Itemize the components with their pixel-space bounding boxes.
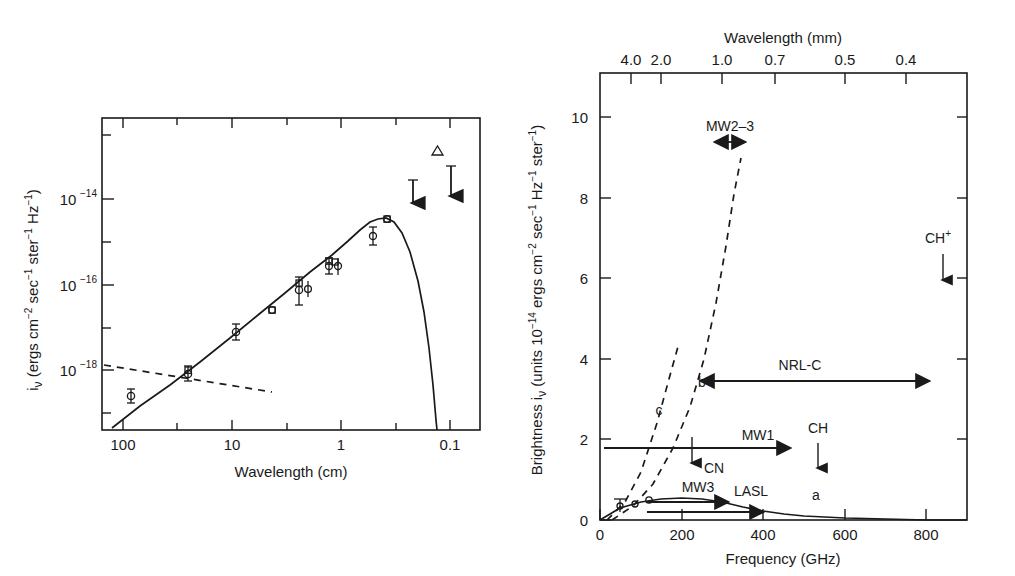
left-xtick-label-1: 10 bbox=[224, 436, 241, 453]
svg-text:Brightness iν (units 10−14 erg: Brightness iν (units 10−14 ergs cm−2 sec… bbox=[527, 125, 549, 475]
annotation-mw2-3: MW2–3 bbox=[706, 118, 754, 142]
left-data-point bbox=[332, 258, 342, 275]
ryt-tail: ) bbox=[528, 125, 545, 130]
right-bottom-tick-label-0: 0 bbox=[596, 526, 604, 543]
right-top-tick-label-1: 2.0 bbox=[651, 51, 672, 68]
right-curve-b-label: b bbox=[698, 374, 706, 390]
annotation-lasl-label: LASL bbox=[734, 483, 768, 499]
right-top-tick-label-2: 1.0 bbox=[712, 51, 733, 68]
left-data-points bbox=[127, 216, 390, 403]
annotation-ch-plus: CH+ bbox=[925, 228, 951, 280]
right-bottom-tick-label-3: 600 bbox=[832, 526, 857, 543]
right-curve-c bbox=[607, 343, 679, 520]
left-blackbody-curve bbox=[112, 218, 437, 430]
left-bottom-ticks bbox=[123, 420, 450, 430]
left-data-point bbox=[127, 389, 135, 403]
annotation-ch-label: CH bbox=[808, 420, 828, 436]
svg-text:iν (ergs cm−2 sec−1 ster−1 Hz−: iν (ergs cm−2 sec−1 ster−1 Hz−1) bbox=[23, 189, 45, 391]
right-top-tick-label-3: 0.7 bbox=[765, 51, 786, 68]
lyt-m2: ster bbox=[24, 239, 41, 268]
right-top-ticks bbox=[631, 73, 906, 84]
right-top-axis-title: Wavelength (mm) bbox=[724, 29, 842, 46]
right-bottom-tick-label-1: 200 bbox=[669, 526, 694, 543]
right-top-tick-label-4: 0.5 bbox=[835, 51, 856, 68]
left-ytick-exp-1: −16 bbox=[80, 274, 97, 285]
left-data-point bbox=[305, 281, 312, 297]
right-ytick-label-3: 6 bbox=[580, 270, 588, 287]
left-xtick-label-3: 0.1 bbox=[440, 436, 461, 453]
right-ytick-label-4: 8 bbox=[580, 190, 588, 207]
left-plot-svg: 100 10 1 0.1 10 −14 10 −16 10 −18 Wavele… bbox=[0, 0, 500, 500]
right-plot-panel: Wavelength (mm) 4.0 2.0 1.0 0.7 0.5 0.4 bbox=[470, 0, 1015, 576]
left-xtick-label-0: 100 bbox=[110, 436, 135, 453]
left-plot-frame bbox=[102, 118, 480, 430]
annotation-cn: CN bbox=[692, 437, 724, 476]
svg-text:10: 10 bbox=[60, 191, 77, 208]
svg-text:CH+: CH+ bbox=[925, 228, 951, 246]
left-open-triangle-point bbox=[432, 146, 443, 155]
ryt-m1: sec bbox=[528, 215, 545, 243]
svg-text:10: 10 bbox=[60, 362, 77, 379]
left-upper-limit-arrow bbox=[408, 180, 418, 203]
right-bottom-axis-title: Frequency (GHz) bbox=[725, 550, 840, 567]
lyt-e3: −1 bbox=[23, 228, 34, 240]
left-ytick-label-1: 10 −16 bbox=[60, 274, 98, 294]
right-ytick-label-5: 10 bbox=[571, 109, 588, 126]
ryt-m0: ergs cm bbox=[528, 255, 545, 313]
left-ytick-exp-0: −14 bbox=[80, 188, 97, 199]
right-curve-c-label: c bbox=[656, 402, 663, 418]
right-ytick-label-0: 0 bbox=[580, 512, 588, 529]
left-plot-panel: 100 10 1 0.1 10 −14 10 −16 10 −18 Wavele… bbox=[0, 0, 500, 500]
figure-page: 100 10 1 0.1 10 −14 10 −16 10 −18 Wavele… bbox=[0, 0, 1015, 576]
left-ytick-label-0: 10 −14 bbox=[60, 188, 98, 208]
annotation-mw1: MW1 bbox=[604, 427, 787, 448]
left-upper-limit-arrow bbox=[446, 166, 456, 196]
right-ytick-label-2: 4 bbox=[580, 351, 588, 368]
left-y-ticks bbox=[102, 135, 114, 413]
annotation-ch-plus-label: CH bbox=[925, 230, 945, 246]
lyt-e2: −1 bbox=[23, 268, 34, 280]
left-upper-limit-arrows bbox=[408, 166, 456, 203]
ryt-m3: ster bbox=[528, 141, 545, 170]
ryt-e3: −1 bbox=[527, 170, 538, 182]
ryt-m2: Hz bbox=[528, 182, 545, 205]
left-y-axis-title: iν (ergs cm−2 sec−1 ster−1 Hz−1) bbox=[23, 189, 45, 391]
lyt-tail: ) bbox=[24, 189, 41, 194]
left-data-point bbox=[295, 277, 303, 305]
ryt-units: (units 10 bbox=[528, 329, 545, 391]
right-bottom-tick-label-4: 800 bbox=[913, 526, 938, 543]
annotation-mw2-3-label: MW2–3 bbox=[706, 118, 754, 134]
left-data-point bbox=[269, 307, 276, 314]
ryt-lead: Brightness i bbox=[528, 397, 545, 475]
right-top-tick-label-0: 4.0 bbox=[621, 51, 642, 68]
left-ytick-label-2: 10 −18 bbox=[60, 359, 98, 379]
left-data-point bbox=[232, 324, 240, 340]
right-plot-svg: Wavelength (mm) 4.0 2.0 1.0 0.7 0.5 0.4 bbox=[470, 0, 1015, 576]
lyt-m1: sec bbox=[24, 280, 41, 308]
right-plot-frame bbox=[600, 73, 967, 520]
annotation-nrl-c: NRL-C bbox=[704, 357, 926, 381]
ryt-e2: −1 bbox=[527, 204, 538, 216]
svg-text:10: 10 bbox=[60, 277, 77, 294]
left-top-ticks bbox=[123, 118, 450, 128]
ryt-e4: −1 bbox=[527, 129, 538, 141]
lyt-e1: −2 bbox=[23, 307, 34, 319]
lyt-e4: −1 bbox=[23, 194, 34, 206]
annotation-ch: CH bbox=[808, 420, 828, 468]
right-y-ticks bbox=[600, 117, 967, 520]
right-ytick-label-1: 2 bbox=[580, 431, 588, 448]
right-top-tick-label-5: 0.4 bbox=[896, 51, 917, 68]
left-xtick-label-2: 1 bbox=[337, 436, 345, 453]
lyt-m3: Hz bbox=[24, 206, 41, 229]
right-curve-a-label: a bbox=[812, 487, 820, 503]
right-bottom-tick-label-2: 400 bbox=[750, 526, 775, 543]
annotation-cn-label: CN bbox=[704, 460, 724, 476]
right-y-axis-title: Brightness iν (units 10−14 ergs cm−2 sec… bbox=[527, 125, 549, 475]
annotation-ch-plus-sup: + bbox=[945, 228, 951, 239]
left-data-point bbox=[369, 227, 377, 245]
ryt-e0: −14 bbox=[527, 312, 538, 329]
annotation-nrl-c-label: NRL-C bbox=[779, 357, 822, 373]
annotation-mw1-label: MW1 bbox=[742, 427, 775, 443]
lyt-units: (ergs cm bbox=[24, 319, 41, 377]
ryt-e1: −2 bbox=[527, 243, 538, 255]
